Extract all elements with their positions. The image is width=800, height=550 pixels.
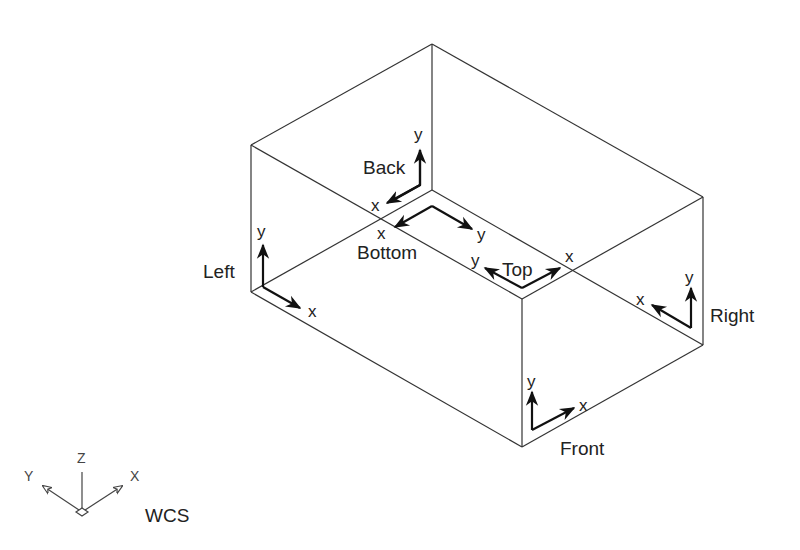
right-face-label: Right	[710, 305, 755, 326]
back-y-label: y	[414, 125, 423, 144]
left-face-label: Left	[203, 261, 235, 282]
left-face-ucs	[263, 245, 300, 308]
top-face-label: Top	[502, 259, 533, 280]
right-face-ucs	[652, 288, 691, 328]
right-y-label: y	[685, 268, 694, 287]
wcs-z-label: Z	[77, 450, 86, 466]
wcs-y-label: Y	[24, 468, 34, 484]
right-x-label: x	[636, 290, 645, 309]
front-x-label: x	[579, 396, 588, 415]
left-x-label: x	[308, 302, 317, 321]
back-face-label: Back	[363, 157, 406, 178]
bottom-x-label: x	[377, 224, 386, 243]
bottom-face-ucs	[395, 206, 472, 229]
wcs-icon	[43, 472, 122, 516]
back-x-label: x	[371, 196, 380, 215]
front-y-label: y	[527, 372, 536, 391]
box-diagram: y x Back x y Bottom y x Top y x Left y x…	[0, 0, 800, 550]
left-y-label: y	[257, 222, 266, 241]
wcs-x-label: X	[130, 468, 140, 484]
wcs-label: WCS	[145, 505, 189, 526]
front-face-ucs	[532, 392, 574, 430]
bottom-face-label: Bottom	[357, 242, 417, 263]
box-edges	[251, 44, 703, 447]
bottom-y-label: y	[477, 225, 486, 244]
front-face-label: Front	[560, 438, 605, 459]
top-y-label: y	[471, 251, 480, 270]
top-x-label: x	[565, 247, 574, 266]
